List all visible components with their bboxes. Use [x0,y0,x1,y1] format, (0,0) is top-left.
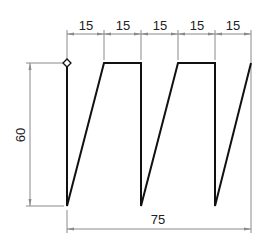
technical-drawing: 15 15 15 15 15 60 75 [0,0,266,244]
width-dimension: 75 [67,60,251,233]
dim-label-4: 15 [190,18,204,33]
dim-label-2: 15 [116,18,130,33]
dim-label-1: 15 [79,18,93,33]
height-label: 60 [13,128,28,142]
waveform-profile [67,63,251,206]
diamond-marker-icon [63,59,71,67]
dim-label-5: 15 [226,18,240,33]
top-dimension-labels: 15 15 15 15 15 [79,18,240,33]
width-label: 75 [151,212,165,227]
height-dimension: 60 [13,63,64,206]
dim-label-3: 15 [153,18,167,33]
